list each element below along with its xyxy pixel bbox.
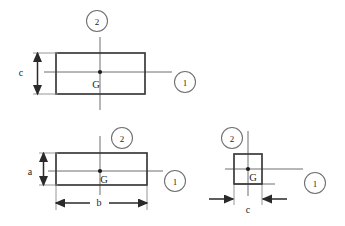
figure-right-dimension-c-label: c (246, 204, 251, 215)
figure-middle-dimension-a-label: a (28, 166, 33, 177)
figure-top-dimension-c-label: c (19, 67, 24, 78)
figure-right-group: G c 2 1 (209, 128, 326, 216)
figure-right-axis-1-label: 1 (313, 179, 318, 189)
figure-right-centroid-label: G (249, 172, 257, 183)
figure-top-centroid-label: G (92, 79, 100, 90)
figure-middle-centroid-dot (98, 169, 102, 173)
figure-right-axis-2-label: 2 (230, 134, 235, 144)
diagram-canvas: G c 2 1 G (0, 0, 345, 226)
figure-top-axis-1-label: 1 (183, 78, 188, 88)
figure-middle-axis-1-label: 1 (173, 177, 178, 187)
figure-middle-centroid-label: G (100, 174, 108, 185)
figure-right-centroid-dot (246, 167, 250, 171)
figure-middle-dimension-b-label: b (97, 197, 102, 208)
figure-top-group: G c 2 1 (19, 11, 196, 111)
figure-top-centroid-dot (98, 70, 102, 74)
figure-middle-group: G a b 2 1 (28, 128, 186, 211)
figure-middle-axis-2-label: 2 (120, 134, 125, 144)
figure-top-axis-2-label: 2 (95, 17, 100, 27)
engineering-diagram: G c 2 1 G (0, 0, 345, 226)
